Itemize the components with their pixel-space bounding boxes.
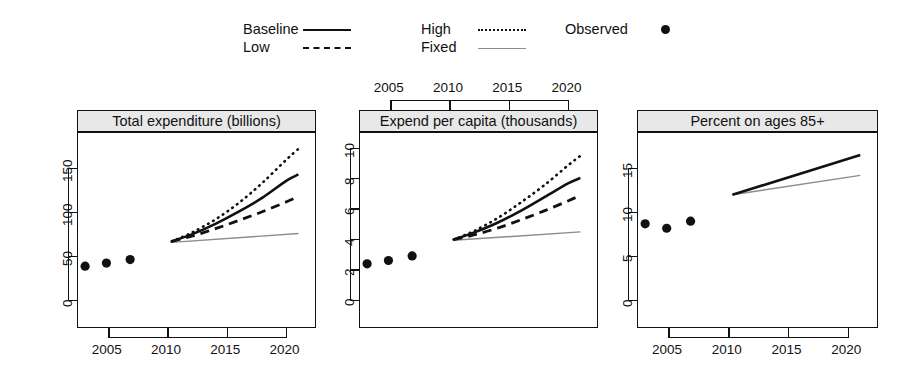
panel-title: Percent on ages 85+ [690,114,824,128]
x-axis-tick [167,328,168,338]
series-line-baseline [172,174,299,241]
y-axis-tick-label: 0 [621,299,634,307]
x-axis-tick-label: 2015 [210,343,240,356]
x-axis-tick-label: 2020 [831,343,861,356]
panel-title-strip: Expend per capita (thousands) [359,110,598,132]
series-line-baseline [732,155,860,195]
y-axis-line [628,168,629,300]
series-line-baseline [454,178,581,240]
observed-point [641,219,650,228]
y-axis-tick-label: 5 [621,255,634,263]
observed-point [102,258,111,267]
plot-area [637,132,878,328]
observed-point [81,262,90,271]
x-axis-tick [390,100,391,110]
y-axis-tick-label: 0 [61,299,74,307]
series-line-fixed [732,175,860,194]
x-axis-tick-label: 2010 [712,343,742,356]
observed-point [408,251,417,260]
legend-label-observed: Observed [565,22,628,36]
x-axis-tick [509,100,510,110]
legend-sample-low-dashed-line [303,47,351,63]
plot-canvas [638,133,877,327]
series-line-high [172,149,299,242]
plot-area [359,132,598,328]
y-axis-tick-label: 8 [343,177,356,185]
x-axis-tick-label: 2005 [92,343,122,356]
y-axis-tick-label: 4 [343,238,356,246]
x-axis-tick [668,328,669,338]
y-axis-tick-label: 0 [343,299,356,307]
y-axis-tick-label: 2 [343,268,356,276]
legend: Baseline Low High Fixed Observed [0,0,915,66]
y-axis-tick-label: 100 [61,204,74,227]
observed-point [384,256,393,265]
panel-expend-per-capita-thousands: Expend per capita (thousands) [359,110,598,328]
x-axis-tick-label: 2010 [151,343,181,356]
x-axis-line [391,100,569,101]
legend-sample-baseline-solid-line [303,29,351,45]
y-axis-tick-label: 6 [343,208,356,216]
x-axis-line [109,337,287,338]
y-axis-line [68,168,69,300]
x-axis-tick [108,328,109,338]
x-axis-tick-label: 2015 [492,81,522,94]
x-axis-tick-label: 2020 [270,343,300,356]
observed-point [126,255,135,264]
panel-title-strip: Percent on ages 85+ [637,110,878,132]
panel-total-expenditure-billions: Total expenditure (billions) [77,110,316,328]
observed-point [363,259,372,268]
y-axis-line [350,148,351,300]
x-axis-tick-label: 2015 [772,343,802,356]
x-axis-tick [286,328,287,338]
plot-canvas [360,133,597,327]
plot-canvas [78,133,315,327]
x-axis-tick-label: 2005 [374,81,404,94]
y-axis-tick-label: 150 [61,160,74,183]
legend-label-low: Low [243,40,270,54]
x-axis-tick [227,328,228,338]
x-axis-tick [848,328,849,338]
observed-point [686,217,695,226]
y-axis-tick-label: 15 [621,163,634,178]
x-axis-tick [728,328,729,338]
legend-label-fixed: Fixed [421,40,456,54]
legend-label-baseline: Baseline [243,22,299,36]
panel-title: Total expenditure (billions) [112,114,280,128]
x-axis-tick [449,100,450,110]
observed-point [662,224,671,233]
plot-area [77,132,316,328]
x-axis-tick-label: 2010 [433,81,463,94]
x-axis-tick-label: 2005 [652,343,682,356]
y-axis-tick-label: 10 [621,207,634,222]
panel-title: Expend per capita (thousands) [380,114,578,128]
x-axis-line [669,337,848,338]
legend-label-high: High [421,22,451,36]
legend-sample-fixed-thin-line [478,48,526,63]
panel-title-strip: Total expenditure (billions) [77,110,316,132]
y-axis-tick-label: 50 [61,251,74,266]
panel-percent-on-ages-85: Percent on ages 85+ [637,110,878,328]
legend-sample-high-dotted-line [478,29,526,45]
x-axis-tick [788,328,789,338]
x-axis-tick [568,100,569,110]
legend-sample-observed-dot-marker [661,25,670,34]
y-axis-tick-label: 10 [343,143,356,158]
x-axis-tick-label: 2020 [552,81,582,94]
figure-root: Baseline Low High Fixed Observed Total e… [0,0,915,381]
series-line-high [454,156,581,240]
